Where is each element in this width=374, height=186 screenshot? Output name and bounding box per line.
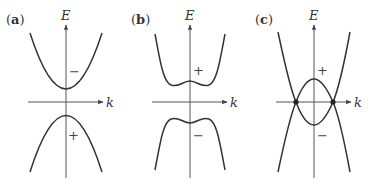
- band-crossing-point: [330, 99, 335, 104]
- lower-band-sign: +: [68, 128, 79, 143]
- panel-c-label: (c): [255, 12, 273, 27]
- lower-band-sign: −: [317, 128, 328, 143]
- panel-b: (b) E k + −: [131, 8, 238, 178]
- lower-band-sign: −: [193, 128, 204, 143]
- energy-axis-label: E: [184, 8, 195, 23]
- upper-band-sign: +: [193, 63, 204, 78]
- momentum-axis-label: k: [230, 95, 238, 110]
- energy-axis-label: E: [60, 8, 71, 23]
- band-structure-figure: (a) E k − + (b) E k + − (c) E k + −: [0, 0, 374, 186]
- momentum-axis-label: k: [106, 95, 114, 110]
- energy-axis-label: E: [308, 8, 319, 23]
- momentum-axis-label: k: [354, 95, 362, 110]
- panel-b-label: (b): [131, 12, 150, 27]
- upper-band-sign: +: [317, 63, 328, 78]
- upper-band-sign: −: [69, 64, 80, 79]
- panel-c: (c) E k + −: [255, 8, 362, 178]
- panel-a-label: (a): [6, 12, 25, 27]
- panel-a: (a) E k − +: [6, 8, 114, 178]
- band-crossing-point: [293, 99, 298, 104]
